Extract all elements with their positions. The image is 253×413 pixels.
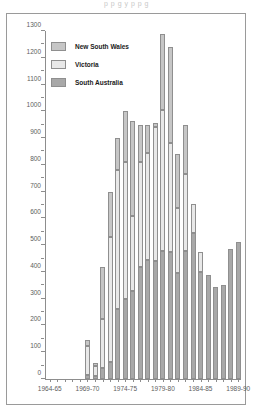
y-tick-label: 500 <box>11 235 45 242</box>
x-axis-line: 1964-651969-701974-751979-801984-851989-… <box>45 379 241 380</box>
bar-segment <box>175 208 180 274</box>
y-tick-mark <box>41 150 44 151</box>
y-tick-label: 600 <box>11 208 45 215</box>
x-tick-mark <box>110 379 111 382</box>
y-tick-label: 300 <box>11 288 45 295</box>
bar-stack <box>115 138 120 379</box>
x-tick-mark <box>155 379 156 382</box>
bar-segment <box>108 237 113 361</box>
bar-stack <box>160 34 165 379</box>
bar-segment <box>123 299 128 379</box>
bar-segment <box>138 162 143 266</box>
x-tick-mark <box>178 379 179 382</box>
x-tick-mark <box>65 379 66 382</box>
y-tick-label: 900 <box>11 128 45 135</box>
bar-stack <box>198 252 203 379</box>
bar-stack <box>138 125 143 379</box>
bar-segment <box>198 272 203 379</box>
x-tick-label: 1989-90 <box>226 385 250 392</box>
x-tick-mark <box>216 379 217 382</box>
bar-segment <box>183 174 188 250</box>
x-tick-mark <box>170 379 171 382</box>
page-bleed-text: p p g y p p g <box>0 0 253 10</box>
bar-segment <box>108 362 113 379</box>
bar-segment <box>168 252 173 379</box>
y-tick-label: 400 <box>11 261 45 268</box>
y-tick-label: 1200 <box>11 47 45 54</box>
bar-stack <box>228 249 233 379</box>
bar-segment <box>175 154 180 208</box>
x-tick-mark <box>185 379 186 382</box>
bar-segment <box>236 242 241 379</box>
bar-stack <box>168 47 173 379</box>
bar-segment <box>93 366 98 377</box>
y-tick-mark <box>41 177 44 178</box>
y-tick-mark <box>41 204 44 205</box>
bar-stack <box>206 275 211 379</box>
bar-segment <box>191 233 196 379</box>
bar-segment <box>138 125 143 162</box>
x-tick-mark <box>118 379 119 382</box>
legend-label: Victoria <box>75 61 99 68</box>
x-tick-mark <box>103 379 104 382</box>
bar-stack <box>183 125 188 379</box>
x-tick-mark <box>223 379 224 382</box>
y-tick-mark <box>41 258 44 259</box>
x-tick-label: 1974-75 <box>113 385 137 392</box>
bar-segment <box>213 287 218 379</box>
x-tick-mark <box>133 379 134 382</box>
bar-segment <box>138 267 143 379</box>
bar-segment <box>160 110 165 251</box>
chart-frame: 0100200300400500600700800900100011001200… <box>6 13 246 405</box>
x-tick-mark <box>163 379 164 382</box>
y-tick-mark <box>41 124 44 125</box>
y-tick-label: 200 <box>11 315 45 322</box>
x-tick-label: 1969-70 <box>76 385 100 392</box>
legend-item: New South Wales <box>51 39 129 54</box>
y-tick-mark <box>41 97 44 98</box>
y-tick-label: 1300 <box>11 21 45 28</box>
legend-item: South Australia <box>51 75 129 90</box>
x-tick-label: 1984-85 <box>189 385 213 392</box>
legend-label: South Australia <box>75 79 123 86</box>
y-tick-mark <box>41 231 44 232</box>
bar-segment <box>85 346 90 375</box>
y-tick-label: 0 <box>11 369 45 376</box>
bar-segment <box>115 138 120 170</box>
bar-stack <box>213 287 218 379</box>
bar-segment <box>100 319 105 369</box>
bar-segment <box>85 375 90 379</box>
y-tick-label: 1100 <box>11 74 45 81</box>
bar-segment <box>115 170 120 309</box>
bar-segment <box>198 252 203 272</box>
bar-segment <box>168 143 173 251</box>
x-tick-mark <box>87 379 88 382</box>
x-tick-mark <box>95 379 96 382</box>
bar-segment <box>145 153 150 260</box>
bar-stack <box>130 121 135 379</box>
y-tick-label: 1000 <box>11 101 45 108</box>
x-tick-mark <box>201 379 202 382</box>
y-tick-mark <box>41 338 44 339</box>
bar-stack <box>123 111 128 379</box>
x-tick-label: 1979-80 <box>151 385 175 392</box>
bar-segment <box>175 273 180 379</box>
bar-stack <box>153 123 158 379</box>
legend-item: Victoria <box>51 57 129 72</box>
bar-stack <box>175 154 180 379</box>
bar-segment <box>100 267 105 319</box>
bar-segment <box>228 249 233 379</box>
bar-segment <box>130 121 135 216</box>
bar-segment <box>108 192 113 238</box>
y-tick-label: 700 <box>11 181 45 188</box>
bar-segment <box>100 368 105 379</box>
bar-segment <box>145 260 150 379</box>
x-tick-mark <box>57 379 58 382</box>
bar-segment <box>168 47 173 143</box>
chart-legend: New South WalesVictoriaSouth Australia <box>51 39 129 93</box>
y-tick-mark <box>41 70 44 71</box>
bar-stack <box>93 363 98 379</box>
bar-stack <box>236 242 241 379</box>
x-tick-mark <box>231 379 232 382</box>
y-tick-label: 100 <box>11 342 45 349</box>
